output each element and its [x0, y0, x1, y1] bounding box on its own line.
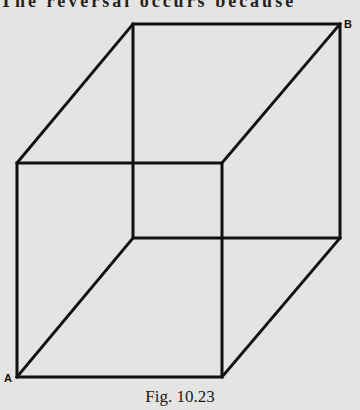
front-face	[17, 163, 222, 377]
edge-bottom-right	[222, 238, 340, 377]
edge-top-right	[222, 24, 340, 163]
edge-top-left	[17, 24, 133, 163]
figure-caption: Fig. 10.23	[0, 387, 360, 407]
back-face	[133, 24, 340, 238]
edge-bottom-left	[17, 238, 133, 377]
necker-cube-diagram	[0, 0, 360, 410]
vertex-label-b: B	[344, 18, 352, 30]
vertex-label-a: A	[4, 372, 12, 384]
